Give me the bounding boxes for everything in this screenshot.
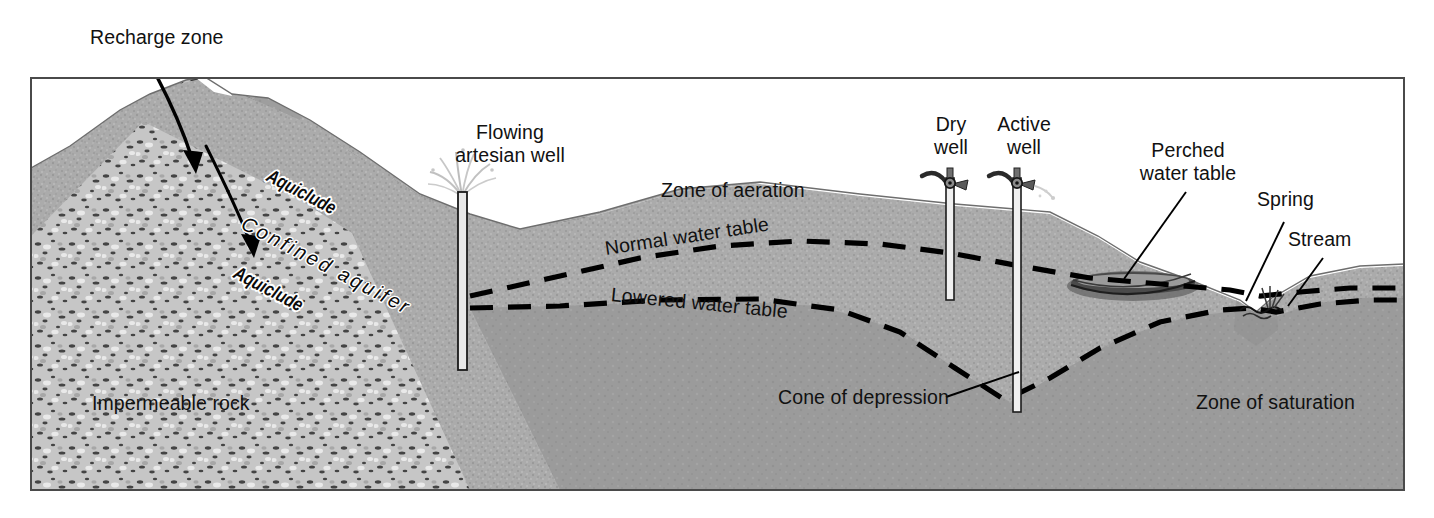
label-cone-of-depression: Cone of depression — [778, 386, 949, 409]
label-flowing-artesian-well: Flowing artesian well — [420, 121, 600, 167]
active-well-pipe — [1013, 178, 1021, 412]
dry-well-pivot-dot — [948, 181, 952, 185]
label-stream: Stream — [1288, 228, 1351, 251]
label-recharge-zone: Recharge zone — [90, 26, 224, 49]
label-impermeable-rock: Impermeable rock — [92, 392, 250, 415]
cross-section-svg — [0, 0, 1434, 518]
label-perched-water-table: Perched water table — [1098, 139, 1278, 185]
label-active-well: Active well — [978, 113, 1070, 159]
label-zone-of-aeration: Zone of aeration — [661, 179, 805, 202]
artesian-well-pipe — [458, 192, 467, 370]
label-spring: Spring — [1257, 188, 1314, 211]
dry-well-pipe — [946, 178, 954, 300]
label-zone-of-saturation: Zone of saturation — [1196, 391, 1355, 414]
figure-canvas: Recharge zone Flowing artesian well Dry … — [0, 0, 1434, 518]
active-well-pivot-dot — [1015, 181, 1019, 185]
